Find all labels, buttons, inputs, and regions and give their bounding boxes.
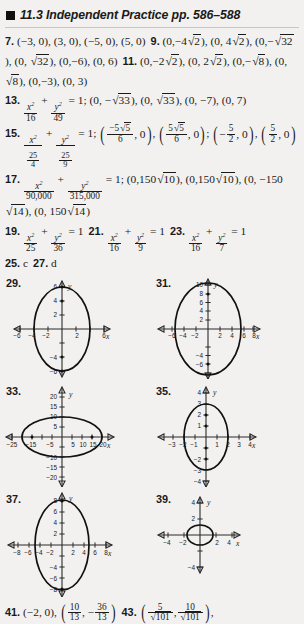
- answer-number: 23.: [170, 225, 185, 237]
- y-tick-label: 4: [53, 519, 57, 526]
- answer-item-19-21-23: 19. x225 + y236 = 121. x216 + y29 = 123.…: [5, 222, 299, 254]
- y-tick-label: 20: [50, 393, 58, 400]
- y-tick-label: −6: [50, 575, 58, 582]
- focus-point: [207, 362, 210, 365]
- focus-point: [205, 424, 208, 427]
- y-tick-label: 15: [50, 403, 58, 410]
- focus-point: [61, 355, 64, 358]
- graph-29-svg: −6 −4 −2 2 6 6 4 2 −4 −6 y x: [0, 275, 152, 379]
- focus-point: [91, 435, 94, 438]
- y-tick-label: −3: [194, 467, 202, 474]
- y-tick-label: −4: [194, 478, 202, 485]
- y-tick-label: 5: [53, 423, 57, 430]
- x-tick-label: −6: [168, 332, 176, 339]
- vertex-point: [61, 285, 64, 288]
- y-tick-label: 4: [191, 499, 195, 506]
- y-axis-label: y: [213, 280, 218, 289]
- graph-number-37: 37.: [6, 493, 21, 505]
- answer-number: 21.: [89, 225, 104, 237]
- y-axis-label: y: [67, 282, 72, 291]
- answer-number: 9.: [151, 35, 160, 47]
- y-axis-label: y: [68, 390, 73, 399]
- answer-value: d: [51, 257, 57, 269]
- y-tick-label: 6: [53, 283, 57, 290]
- vertex-point: [61, 369, 64, 372]
- x-tick-label: −25: [7, 441, 18, 448]
- y-tick-label: −20: [46, 474, 57, 481]
- answer-number: 15.: [5, 127, 20, 139]
- graph-number-31: 31.: [156, 277, 171, 289]
- answer-item-13: 13. x216 + y249 = 1; (0, −√33), (0, √33)…: [5, 91, 299, 123]
- y-tick-label: 6: [53, 508, 57, 515]
- x-tick-label: −2: [179, 441, 187, 448]
- y-tick-label: −4: [188, 564, 196, 571]
- graph-cell-33: 33.: [0, 379, 152, 487]
- x-tick-label: 1: [215, 441, 219, 448]
- graph-cell-37: 37.: [0, 487, 152, 597]
- y-tick-label: −4: [50, 354, 58, 361]
- graph-37-svg: −8 −6 −4 −2 2 4 6 8 8 6 4 2 −4 −6: [0, 487, 152, 597]
- graph-number-33: 33.: [6, 385, 21, 397]
- x-tick-label: −5: [46, 441, 54, 448]
- graph-number-39: 39.: [156, 493, 171, 505]
- focus-point: [207, 292, 210, 295]
- x-tick-label: −2: [46, 549, 54, 556]
- y-tick-label: 2: [53, 530, 57, 537]
- x-tick-label: 20: [99, 441, 107, 448]
- graph-39-svg: −4 −2 2 4 4 2 −4 y x: [152, 487, 304, 597]
- vertex-point: [61, 587, 64, 590]
- graph-cell-29: 29.: [0, 275, 152, 379]
- y-tick-label: −6: [50, 368, 58, 375]
- x-tick-label: −15: [26, 441, 37, 448]
- y-tick-label: 2: [53, 311, 57, 318]
- x-tick-label: 6: [242, 332, 246, 339]
- y-tick-label: 1: [197, 422, 201, 429]
- x-tick-label: 4: [227, 539, 231, 546]
- y-axis-label: y: [68, 494, 73, 503]
- x-axis-label: x: [105, 332, 110, 341]
- y-tick-label: 8: [53, 497, 57, 504]
- x-tick-label: −4: [35, 549, 43, 556]
- y-tick-label: −2: [194, 456, 202, 463]
- x-axis-label: x: [106, 441, 111, 450]
- answer-number: 11.: [123, 55, 138, 67]
- answer-item-41-43: 41. (−2, 0), (1013, −3613)43. (5√101, 10…: [5, 603, 299, 624]
- answer-number: 27.: [33, 257, 48, 269]
- x-axis-label: x: [251, 441, 256, 450]
- y-tick-label: 2: [191, 515, 195, 522]
- graph-33-svg: −25 −15 −5 5 10 15 20 20 15 10 5 −10 −15…: [0, 379, 152, 487]
- x-axis-label: x: [107, 549, 112, 558]
- x-tick-label: 2: [75, 332, 79, 339]
- y-axis-label: y: [212, 388, 217, 397]
- y-tick-label: 2: [197, 411, 201, 418]
- graph-cell-39: 39.: [152, 487, 304, 597]
- x-tick-label: 4: [82, 549, 86, 556]
- answer-number: 25.: [5, 257, 20, 269]
- answers-list: 7. (−3, 0), (3, 0), (−5, 0), (5, 0)9. (0…: [0, 32, 304, 273]
- graph-number-29: 29.: [6, 277, 21, 289]
- x-tick-label: 15: [89, 441, 97, 448]
- x-tick-label: 6: [93, 549, 97, 556]
- x-axis-label: x: [255, 332, 260, 341]
- x-axis-label: x: [235, 539, 240, 548]
- x-tick-label: −2: [42, 332, 50, 339]
- y-tick-label: 3: [197, 400, 201, 407]
- answer-number: 7.: [5, 35, 14, 47]
- answers-list-bottom: 41. (−2, 0), (1013, −3613)43. (5√101, 10…: [0, 597, 304, 624]
- y-tick-label: −6: [196, 361, 204, 368]
- graph-35-svg: −3 −2 −1 1 2 3 4 4 3 2 1 −2 −3 −4: [152, 379, 304, 487]
- y-tick-label: 8: [199, 290, 203, 297]
- answer-number: 41.: [5, 606, 20, 618]
- x-tick-label: −6: [24, 549, 32, 556]
- vertex-point: [61, 499, 64, 502]
- x-tick-label: −6: [13, 332, 21, 339]
- y-tick-label: −4: [50, 564, 58, 571]
- x-tick-label: −2: [191, 332, 199, 339]
- x-tick-label: 2: [226, 441, 230, 448]
- x-tick-label: −2: [179, 539, 187, 546]
- x-tick-label: 2: [215, 539, 219, 546]
- y-tick-label: 2: [199, 316, 203, 323]
- square-bullet-icon: [6, 11, 15, 20]
- focus-point: [205, 457, 208, 460]
